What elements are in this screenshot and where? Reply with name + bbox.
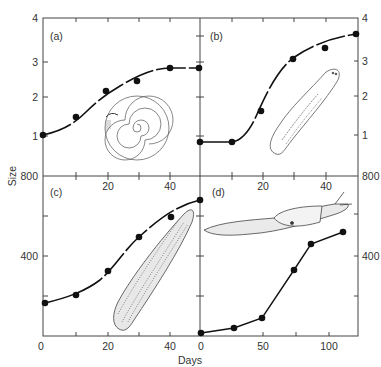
data-point	[73, 292, 80, 299]
data-point	[168, 214, 175, 221]
data-point	[340, 229, 347, 236]
data-point	[134, 78, 141, 85]
x-tick-d-100: 100	[320, 340, 338, 352]
slug-illustration	[204, 192, 352, 235]
y-tick-c-800: 800	[20, 170, 38, 182]
y-tick-d-800: 800	[362, 170, 380, 182]
panel-label-c: (c)	[50, 186, 62, 198]
y-tick-a-4: 4	[32, 12, 38, 24]
data-point	[198, 330, 205, 337]
y-tick-c-400: 400	[20, 250, 38, 262]
y-tick-a-2: 2	[32, 91, 38, 103]
data-point	[197, 197, 204, 204]
y-tick-a-3: 3	[32, 56, 38, 68]
y-tick-b-2: 2	[362, 90, 368, 102]
data-point	[290, 56, 297, 63]
data-point	[167, 65, 174, 72]
worm-illustration	[114, 210, 194, 330]
data-point	[42, 300, 49, 307]
y-tick-b-4: 4	[362, 12, 368, 24]
x-tick-a-20: 20	[102, 180, 114, 192]
data-point	[259, 315, 266, 322]
x-tick-c-0: 0	[38, 340, 44, 352]
y-tick-b-1: 1	[362, 129, 368, 141]
data-point	[258, 108, 265, 115]
data-point	[308, 241, 315, 248]
y-tick-d-400: 400	[362, 250, 380, 262]
panel-label-b: (b)	[210, 30, 223, 42]
y-tick-a-1: 1	[32, 130, 38, 142]
data-point	[291, 267, 298, 274]
x-tick-c-20: 20	[102, 340, 114, 352]
x-tick-a-40: 40	[164, 180, 176, 192]
x-tick-d-50: 50	[257, 340, 269, 352]
x-tick-b-40: 40	[320, 180, 332, 192]
data-point	[231, 325, 238, 332]
data-point	[136, 234, 143, 241]
x-tick-c-40: 40	[164, 340, 176, 352]
data-point	[353, 31, 360, 38]
series-b	[197, 31, 360, 146]
y-axis-title: Size	[6, 166, 18, 187]
data-point	[197, 139, 204, 146]
data-point	[196, 65, 203, 72]
snail-shell-illustration	[105, 96, 173, 160]
data-point	[40, 132, 47, 139]
panel-label-a: (a)	[50, 30, 63, 42]
panel-label-d: (d)	[212, 186, 225, 198]
series-d	[198, 229, 347, 337]
x-axis-title: Days	[178, 354, 202, 366]
flatworm-illustration	[270, 69, 339, 154]
x-tick-d-0: 0	[198, 340, 204, 352]
data-point	[322, 45, 329, 52]
x-tick-b-20: 20	[257, 180, 269, 192]
growth-curves-figure: 4 3 2 1 4 3 2 1 800 400 800 400 20 40 20…	[0, 0, 381, 367]
data-point	[103, 88, 110, 95]
data-point	[105, 268, 112, 275]
y-tick-b-3: 3	[362, 55, 368, 67]
data-point	[73, 114, 80, 121]
series-c	[42, 197, 204, 307]
data-point	[229, 139, 236, 146]
